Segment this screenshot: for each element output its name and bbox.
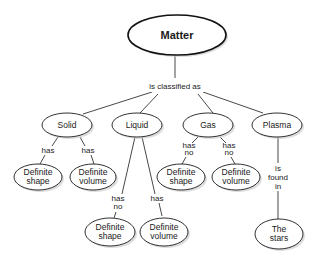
node-stars-l2: stars (270, 233, 288, 243)
node-solid-definite-shape: Definite shape (14, 164, 62, 190)
node-gas-definite-volume: Definite volume (212, 164, 260, 190)
node-liquid-definite-shape: Definite shape (85, 218, 135, 246)
node-liquid-volume-l2: volume (150, 231, 178, 241)
node-plasma: Plasma (252, 113, 302, 137)
node-gas-shape-l2: shape (169, 176, 192, 186)
edge-liquid-hasno-shape (122, 137, 135, 194)
edge-gas-hasno-shape-b (182, 157, 186, 164)
link-label-plasma-l1: is (275, 164, 281, 173)
node-liquid-shape-l2: shape (98, 231, 121, 241)
node-plasma-label: Plasma (263, 120, 292, 130)
link-label-gas-has-shape-l2: no (185, 148, 194, 157)
edge-solid-has-1 (52, 137, 58, 146)
node-liquid: Liquid (112, 113, 162, 137)
edge-solid-has-1b (40, 155, 45, 164)
node-gas-label: Gas (200, 120, 216, 130)
node-gas-definite-shape: Definite shape (157, 164, 205, 190)
edge-classified-to-gas (198, 94, 213, 113)
edge-liquid-has-volume (142, 137, 155, 194)
edge-classified-to-liquid (140, 94, 158, 113)
node-solid: Solid (42, 113, 92, 137)
node-gas-volume-l2: volume (222, 176, 250, 186)
node-solid-definite-volume: Definite volume (70, 164, 116, 190)
link-label-solid-has-shape: has (42, 146, 55, 155)
concept-map-diagram: Matter is classified as Solid Liquid Gas… (0, 0, 323, 260)
edge-gas-hasno-volume-b (231, 157, 235, 164)
link-label-solid-has-volume: has (82, 146, 95, 155)
edge-solid-has-2b (91, 155, 94, 164)
edge-liquid-has-volume-b (159, 203, 162, 216)
node-plasma-the-stars: The stars (255, 219, 303, 249)
edge-liquid-hasno-shape-b (114, 212, 116, 218)
link-label-liquid-has-volume: has (151, 194, 164, 203)
node-solid-volume-l2: volume (79, 176, 107, 186)
node-liquid-label: Liquid (126, 120, 149, 130)
node-matter-label: Matter (160, 29, 194, 41)
link-label-gas-has-volume-l2: no (225, 148, 234, 157)
link-label-plasma-l3: in (275, 182, 281, 191)
node-liquid-definite-volume: Definite volume (140, 218, 188, 246)
link-label-plasma-l2: found (268, 173, 288, 182)
node-matter: Matter (128, 15, 226, 55)
node-gas: Gas (183, 113, 233, 137)
link-label-is-classified-as: is classified as (149, 82, 201, 91)
link-label-liquid-has-shape-l2: no (114, 202, 123, 211)
edge-classified-to-plasma (203, 92, 263, 113)
edge-solid-has-2 (80, 137, 85, 146)
node-solid-shape-l2: shape (26, 176, 49, 186)
node-solid-label: Solid (58, 120, 77, 130)
